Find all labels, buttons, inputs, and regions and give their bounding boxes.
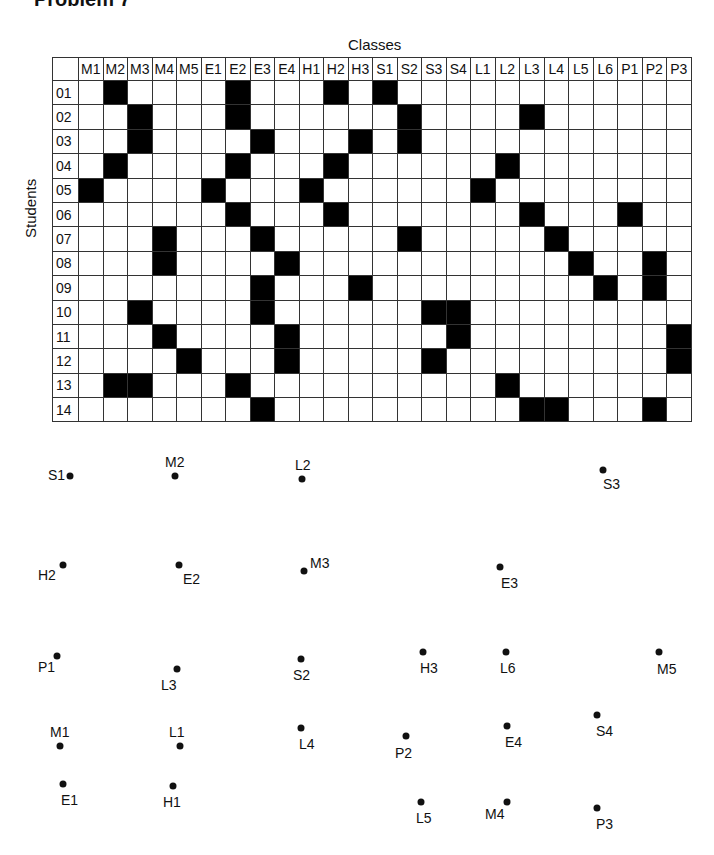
graph-node-label: E1 bbox=[61, 792, 78, 808]
grid-cell bbox=[544, 398, 569, 422]
grid-cell bbox=[201, 178, 226, 202]
student-id: 13 bbox=[53, 373, 79, 397]
grid-cell bbox=[152, 373, 177, 397]
student-row: 08 bbox=[53, 251, 692, 275]
grid-cell bbox=[569, 373, 594, 397]
grid-cell bbox=[373, 81, 398, 105]
grid-cell bbox=[446, 105, 471, 129]
grid-cell bbox=[544, 202, 569, 226]
grid-cell bbox=[471, 202, 496, 226]
grid-cell bbox=[226, 324, 251, 348]
grid-cell bbox=[667, 154, 692, 178]
grid-cell bbox=[520, 300, 545, 324]
grid-cell bbox=[544, 276, 569, 300]
grid-cell bbox=[471, 81, 496, 105]
grid-cell bbox=[495, 81, 520, 105]
student-row: 06 bbox=[53, 202, 692, 226]
student-id: 08 bbox=[53, 251, 79, 275]
graph-node-dot bbox=[172, 473, 179, 480]
class-header: H2 bbox=[324, 58, 349, 81]
grid-cell bbox=[128, 154, 153, 178]
grid-cell bbox=[226, 178, 251, 202]
grid-cell bbox=[397, 398, 422, 422]
grid-cell bbox=[324, 276, 349, 300]
grid-cell bbox=[471, 129, 496, 153]
class-header: M3 bbox=[128, 58, 153, 81]
grid-cell bbox=[201, 373, 226, 397]
graph-node-dot bbox=[301, 568, 308, 575]
grid-cell bbox=[177, 300, 202, 324]
grid-cell bbox=[152, 202, 177, 226]
grid-cell bbox=[544, 349, 569, 373]
grid-cell bbox=[250, 154, 275, 178]
grid-cell bbox=[618, 349, 643, 373]
grid-cell bbox=[495, 324, 520, 348]
graph-node-label: S4 bbox=[596, 723, 613, 739]
grid-cell bbox=[422, 324, 447, 348]
grid-cell bbox=[495, 129, 520, 153]
graph-node-label: M1 bbox=[50, 724, 69, 740]
grid-cell bbox=[569, 178, 594, 202]
grid-cell bbox=[177, 154, 202, 178]
graph-node-dot bbox=[497, 564, 504, 571]
class-header: M2 bbox=[103, 58, 128, 81]
class-header: M4 bbox=[152, 58, 177, 81]
grid-cell bbox=[103, 349, 128, 373]
grid-cell bbox=[593, 324, 618, 348]
class-header: E2 bbox=[226, 58, 251, 81]
grid-cell bbox=[593, 129, 618, 153]
grid-cell bbox=[667, 129, 692, 153]
grid-cell bbox=[667, 398, 692, 422]
grid-cell bbox=[226, 251, 251, 275]
grid-cell bbox=[520, 398, 545, 422]
grid-cell bbox=[177, 398, 202, 422]
grid-cell bbox=[422, 227, 447, 251]
grid-cell bbox=[642, 227, 667, 251]
graph-node-label: E2 bbox=[183, 571, 200, 587]
grid-cell bbox=[250, 105, 275, 129]
grid-cell bbox=[103, 154, 128, 178]
grid-cell bbox=[226, 276, 251, 300]
grid-cell bbox=[667, 276, 692, 300]
grid-cell bbox=[397, 251, 422, 275]
grid-cell bbox=[618, 398, 643, 422]
graph-node-dot bbox=[298, 725, 305, 732]
graph-node-dot bbox=[504, 799, 511, 806]
grid-cell bbox=[373, 349, 398, 373]
student-row: 12 bbox=[53, 349, 692, 373]
grid-cell bbox=[642, 251, 667, 275]
grid-cell bbox=[618, 178, 643, 202]
grid-cell bbox=[299, 300, 324, 324]
grid-cell bbox=[397, 227, 422, 251]
student-row: 04 bbox=[53, 154, 692, 178]
grid-cell bbox=[226, 373, 251, 397]
graph-node-label: S1 bbox=[48, 467, 65, 483]
class-header: H1 bbox=[299, 58, 324, 81]
grid-cell bbox=[250, 202, 275, 226]
grid-cell bbox=[373, 373, 398, 397]
student-row: 09 bbox=[53, 276, 692, 300]
grid-cell bbox=[495, 202, 520, 226]
graph-node-label: E4 bbox=[505, 734, 522, 750]
graph-node-dot bbox=[600, 467, 607, 474]
student-id: 01 bbox=[53, 81, 79, 105]
grid-cell bbox=[299, 105, 324, 129]
grid-cell bbox=[593, 349, 618, 373]
grid-cell bbox=[128, 251, 153, 275]
grid-cell bbox=[446, 129, 471, 153]
grid-cell bbox=[275, 349, 300, 373]
student-class-grid: M1M2M3M4M5E1E2E3E4H1H2H3S1S2S3S4L1L2L3L4… bbox=[52, 57, 692, 422]
graph-node-label: E3 bbox=[501, 575, 518, 591]
grid-cell bbox=[128, 300, 153, 324]
grid-cell bbox=[299, 349, 324, 373]
grid-cell bbox=[618, 276, 643, 300]
grid-cell bbox=[324, 178, 349, 202]
graph-node-dot bbox=[299, 476, 306, 483]
grid-cell bbox=[544, 81, 569, 105]
grid-cell bbox=[275, 276, 300, 300]
class-header: E1 bbox=[201, 58, 226, 81]
student-row: 13 bbox=[53, 373, 692, 397]
graph-node-dot bbox=[403, 733, 410, 740]
grid-cell bbox=[397, 202, 422, 226]
grid-cell bbox=[201, 81, 226, 105]
